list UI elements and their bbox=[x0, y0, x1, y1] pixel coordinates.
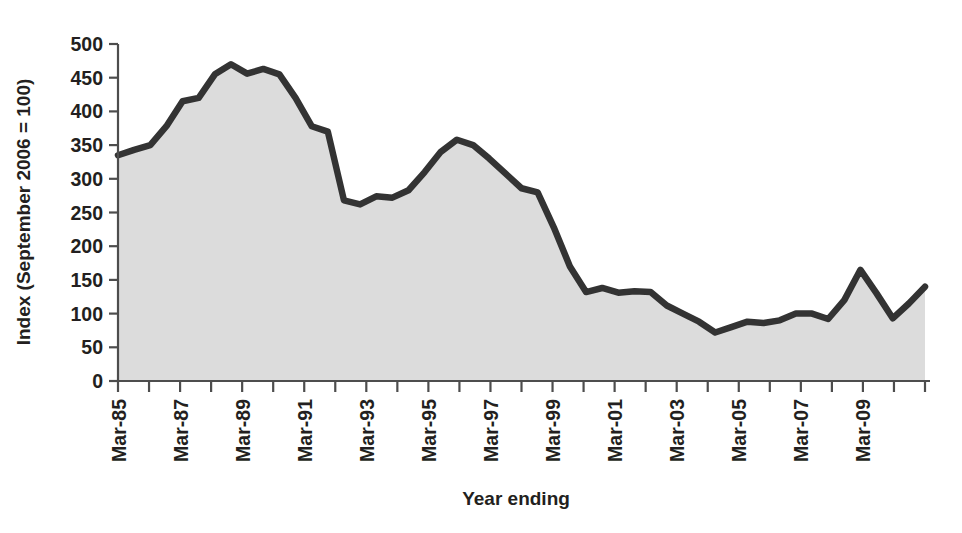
y-axis-tick-label: 150 bbox=[70, 269, 103, 291]
y-axis-tick-label: 450 bbox=[70, 67, 103, 89]
area-fill-series-index bbox=[118, 64, 925, 381]
x-axis-tick-labels: Mar-85Mar-87Mar-89Mar-91Mar-93Mar-95Mar-… bbox=[108, 399, 875, 462]
y-axis-tick-label: 400 bbox=[70, 100, 103, 122]
x-axis-title: Year ending bbox=[462, 488, 570, 509]
x-axis-tick-label: Mar-01 bbox=[604, 399, 626, 462]
y-axis-title: Index (September 2006 = 100) bbox=[13, 79, 34, 346]
index-area-chart: 050100150200250300350400450500 Mar-85Mar… bbox=[0, 0, 962, 533]
x-axis-tick-label: Mar-03 bbox=[666, 399, 688, 462]
y-axis-tick-label: 500 bbox=[70, 33, 103, 55]
y-axis-tick-label: 350 bbox=[70, 134, 103, 156]
x-axis-tick-label: Mar-93 bbox=[356, 399, 378, 462]
x-axis-tick-label: Mar-09 bbox=[852, 399, 874, 462]
x-axis-tick-label: Mar-97 bbox=[480, 399, 502, 462]
x-axis-tick-label: Mar-95 bbox=[418, 399, 440, 462]
y-axis-tick-label: 0 bbox=[92, 370, 103, 392]
y-axis-ticks bbox=[109, 44, 118, 381]
x-axis-tick-label: Mar-87 bbox=[170, 399, 192, 462]
x-axis-ticks bbox=[118, 381, 925, 392]
x-axis-tick-label: Mar-89 bbox=[232, 399, 254, 462]
chart-figure: 050100150200250300350400450500 Mar-85Mar… bbox=[0, 0, 962, 533]
x-axis-tick-label: Mar-05 bbox=[728, 399, 750, 462]
x-axis-tick-label: Mar-07 bbox=[790, 399, 812, 462]
y-axis-tick-labels: 050100150200250300350400450500 bbox=[70, 33, 103, 392]
y-axis-tick-label: 250 bbox=[70, 202, 103, 224]
y-axis-tick-label: 50 bbox=[81, 336, 103, 358]
x-axis-tick-label: Mar-85 bbox=[108, 399, 130, 462]
x-axis-tick-label: Mar-99 bbox=[542, 399, 564, 462]
y-axis-tick-label: 200 bbox=[70, 235, 103, 257]
y-axis-tick-label: 300 bbox=[70, 168, 103, 190]
y-axis-tick-label: 100 bbox=[70, 303, 103, 325]
x-axis-tick-label: Mar-91 bbox=[294, 399, 316, 462]
